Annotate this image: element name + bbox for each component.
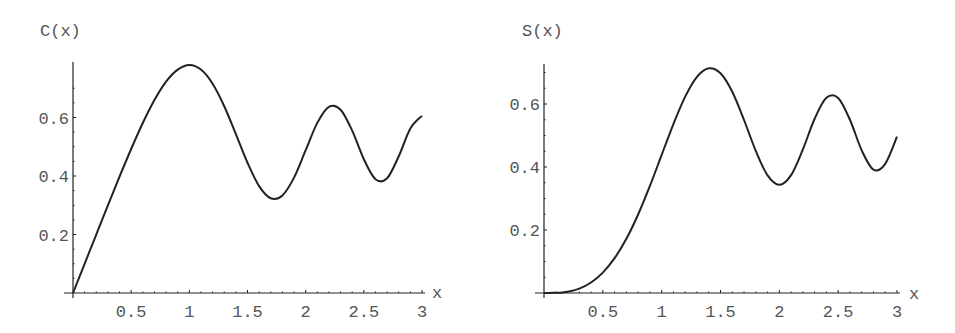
y-axis-label: C(x) xyxy=(40,22,81,41)
x-tick-label: 1 xyxy=(184,303,194,322)
s-curve xyxy=(544,68,897,293)
x-tick-label: 2 xyxy=(301,303,311,322)
y-tick-label: 0.2 xyxy=(38,227,69,246)
y-tick-label: 0.4 xyxy=(509,159,540,178)
y-tick-label: 0.6 xyxy=(38,110,69,129)
fresnel-plots: C(x) x 0.511.522.530.20.40.6 S(x) x 0.51… xyxy=(0,0,955,333)
x-tick-label: 1.5 xyxy=(705,303,736,322)
c-curve xyxy=(73,65,422,293)
y-axis-label: S(x) xyxy=(522,22,563,41)
x-axis-label: x xyxy=(909,285,919,304)
axis-ticks: 0.511.522.530.20.40.6 xyxy=(38,88,427,322)
y-tick-label: 0.4 xyxy=(38,168,69,187)
x-tick-label: 2 xyxy=(774,303,784,322)
x-tick-label: 1 xyxy=(657,303,667,322)
x-tick-label: 0.5 xyxy=(588,303,619,322)
x-tick-label: 0.5 xyxy=(116,303,147,322)
x-tick-label: 1.5 xyxy=(232,303,263,322)
x-axis-label: x xyxy=(432,284,442,303)
y-tick-label: 0.2 xyxy=(509,222,540,241)
x-tick-label: 2.5 xyxy=(349,303,380,322)
axis-ticks: 0.511.522.530.20.40.6 xyxy=(509,73,902,323)
chart-s: S(x) x 0.511.522.530.20.40.6 xyxy=(509,22,919,322)
x-tick-label: 3 xyxy=(417,303,427,322)
chart-c: C(x) x 0.511.522.530.20.40.6 xyxy=(38,22,442,322)
x-tick-label: 2.5 xyxy=(823,303,854,322)
y-tick-label: 0.6 xyxy=(509,96,540,115)
x-tick-label: 3 xyxy=(892,303,902,322)
